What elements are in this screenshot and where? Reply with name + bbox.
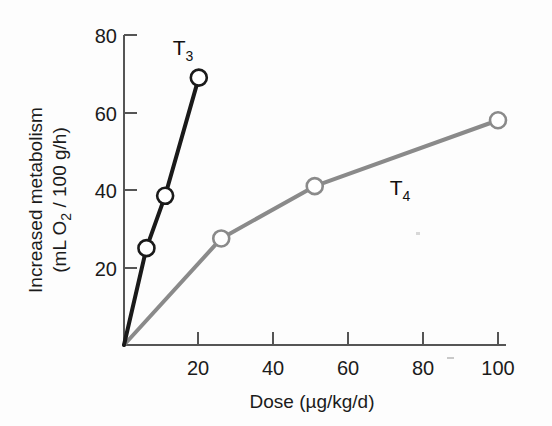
t4-label-base: T: [390, 176, 403, 199]
y-tick-label-60: 60: [95, 103, 117, 125]
t3-label-base: T: [173, 36, 186, 59]
t4-data-point: [490, 112, 506, 128]
x-tick-label-80: 80: [412, 357, 434, 379]
y-axis-title-line2-a: (mL O: [49, 221, 70, 273]
t3-data-point: [157, 188, 173, 204]
x-tick-label-100: 100: [481, 357, 514, 379]
y-tick-label-20: 20: [95, 258, 117, 280]
x-tick-label-40: 40: [262, 357, 284, 379]
x-axis-title: Dose (µg/kg/d): [250, 391, 375, 412]
y-axis-title-group: Increased metabolism (mL O2 / 100 g/h): [25, 107, 74, 293]
x-tick-label-20: 20: [187, 357, 209, 379]
chart-figure: 80 60 40 20 20 40 60 80 100: [0, 0, 552, 426]
y-axis-title-subscript: 2: [58, 213, 74, 221]
y-tick-label-40: 40: [95, 180, 117, 202]
line-chart: 80 60 40 20 20 40 60 80 100: [0, 0, 552, 426]
t3-data-point: [191, 70, 207, 86]
y-tick-label-80: 80: [95, 25, 117, 47]
y-axis-title-line2-c: / 100 g/h): [49, 127, 70, 213]
scan-speck: [447, 357, 454, 359]
y-axis-title-line1: Increased metabolism: [25, 107, 46, 293]
t4-data-point: [307, 178, 323, 194]
t3-data-point: [138, 240, 154, 256]
scan-speck-2: [416, 232, 420, 235]
t3-label-subscript: 3: [186, 48, 194, 64]
t4-label-subscript: 4: [403, 188, 411, 204]
t4-data-point: [213, 230, 229, 246]
x-tick-label-60: 60: [337, 357, 359, 379]
